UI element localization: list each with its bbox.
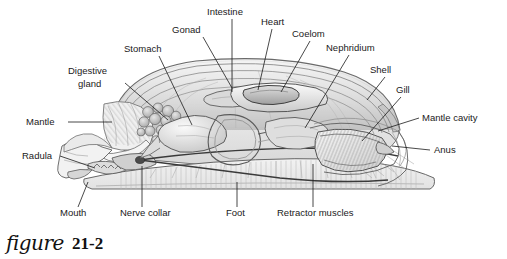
leader-line-mouth — [78, 182, 88, 207]
figure-caption-number: 21-2 — [72, 234, 103, 253]
label-mantle-cavity: Mantle cavity — [422, 112, 478, 123]
figure-caption-word: figure — [4, 231, 64, 255]
label-nerve-collar: Nerve collar — [120, 207, 171, 218]
label-foot: Foot — [226, 207, 245, 218]
mollusc-anatomy-diagram: IntestineGonadHeartCoelomNephridiumStoma… — [0, 0, 507, 259]
heart — [243, 85, 299, 104]
label-shell: Shell — [370, 64, 391, 75]
label-mouth: Mouth — [60, 207, 86, 218]
label-heart: Heart — [261, 16, 285, 27]
label-radula: Radula — [22, 150, 53, 161]
label-nephridium: Nephridium — [326, 42, 375, 53]
label-retractor-muscles: Retractor muscles — [277, 207, 354, 218]
label-digestive-gland-2: gland — [78, 78, 101, 89]
label-digestive-gland-1: Digestive — [68, 65, 107, 76]
label-stomach: Stomach — [124, 43, 162, 54]
label-anus: Anus — [434, 144, 456, 155]
label-gonad: Gonad — [172, 24, 201, 35]
label-coelom: Coelom — [292, 28, 325, 39]
figure-panel: IntestineGonadHeartCoelomNephridiumStoma… — [0, 0, 507, 259]
label-gill: Gill — [396, 84, 410, 95]
label-mantle: Mantle — [26, 116, 55, 127]
leader-line-anus — [392, 146, 430, 150]
label-intestine: Intestine — [207, 6, 243, 17]
